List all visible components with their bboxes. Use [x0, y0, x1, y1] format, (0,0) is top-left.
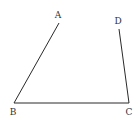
label-c: C: [126, 107, 133, 117]
segment-cd: [119, 29, 129, 103]
label-d: D: [114, 16, 121, 26]
label-a: A: [54, 10, 62, 20]
segment-ab: [14, 23, 59, 103]
diagram-svg: A B C D: [0, 0, 140, 120]
label-b: B: [10, 107, 17, 117]
geometry-diagram: A B C D: [0, 0, 140, 120]
